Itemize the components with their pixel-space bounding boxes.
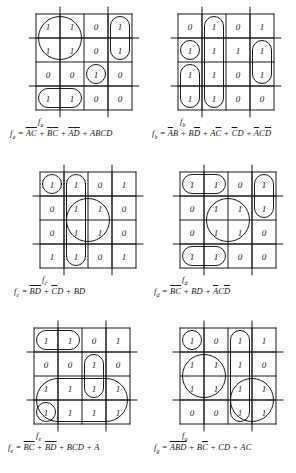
kmap-cell: 1 xyxy=(238,228,243,238)
kmap-cell: 0 xyxy=(118,94,123,104)
kmap-cell: 1 xyxy=(74,252,79,262)
kmap-cell: 1 xyxy=(68,384,73,394)
kmap-cell: 1 xyxy=(262,384,267,394)
kmap-cell: 1 xyxy=(190,252,195,262)
kmap-cell: 0 xyxy=(238,252,243,262)
kmap-cell: 1 xyxy=(214,180,219,190)
kmap-cell: 1 xyxy=(238,336,243,346)
kmap-cell: 0 xyxy=(190,228,195,238)
kmap-fa: 1101110100101100fafa = AC + BC + AD + AB… xyxy=(8,6,156,164)
kmap-cell: 1 xyxy=(262,336,267,346)
kmap-cell: 0 xyxy=(190,408,195,418)
kmap-formula-fe: fe = BC + BD + BCD + A xyxy=(6,442,156,454)
kmap-name-fd: fd xyxy=(152,274,296,286)
kmap-cell: 0 xyxy=(260,94,265,104)
kmap-grid-fd: 1101011101101100 xyxy=(152,164,296,284)
kmap-cell: 1 xyxy=(44,336,49,346)
kmap-cell: 1 xyxy=(46,22,51,32)
kmap-sheet: 1101110100101100fafa = AC + BC + AD + AB… xyxy=(0,0,296,473)
kmap-cell: 1 xyxy=(74,228,79,238)
kmap-cell: 1 xyxy=(98,228,103,238)
kmap-cell: 1 xyxy=(188,94,193,104)
kmap-cell: 1 xyxy=(214,360,219,370)
kmap-cell: 1 xyxy=(74,180,79,190)
kmap-cell: 1 xyxy=(94,70,99,80)
kmap-cell: 1 xyxy=(70,94,75,104)
kmap-cell: 1 xyxy=(262,180,267,190)
kmap-formula-fb: fb = AB + BD + AC + CD + ACD xyxy=(150,128,296,140)
kmap-cell: 1 xyxy=(70,46,75,56)
kmap-cell: 1 xyxy=(70,22,75,32)
kmap-cell: 1 xyxy=(190,180,195,190)
kmap-cell: 1 xyxy=(116,408,121,418)
kmap-cell: 1 xyxy=(212,94,217,104)
kmap-cell: 0 xyxy=(236,94,241,104)
kmap-cell: 1 xyxy=(46,94,51,104)
kmap-cell: 1 xyxy=(68,408,73,418)
kmap-cell: 0 xyxy=(118,70,123,80)
kmap-cell: 1 xyxy=(190,360,195,370)
kmap-cell: 1 xyxy=(236,46,241,56)
kmap-grid-fg: 1011111011110011 xyxy=(152,320,296,440)
kmap-formula-fg: fg = ABD + BC + CD + AC xyxy=(152,442,296,454)
kmap-fg: 1011111011110011fgfg = ABD + BC + CD + A… xyxy=(152,320,296,473)
kmap-cell: 1 xyxy=(50,180,55,190)
kmap-cell: 0 xyxy=(262,228,267,238)
kmap-name-fg: fg xyxy=(152,430,296,442)
kmap-cell: 1 xyxy=(260,46,265,56)
kmap-grid-fb: 0101111111011100 xyxy=(150,6,296,126)
kmap-cell: 0 xyxy=(46,70,51,80)
kmap-cell: 0 xyxy=(116,360,121,370)
kmap-cell: 0 xyxy=(188,22,193,32)
kmap-cell: 0 xyxy=(94,46,99,56)
kmap-grid-fc: 1101011001101101 xyxy=(12,164,160,284)
kmap-cell: 1 xyxy=(122,180,127,190)
kmap-cell: 0 xyxy=(214,336,219,346)
kmap-cell: 1 xyxy=(214,252,219,262)
kmap-cell: 0 xyxy=(98,180,103,190)
kmap-cell: 1 xyxy=(262,408,267,418)
kmap-name-fb: fb xyxy=(150,116,296,128)
kmap-cell: 1 xyxy=(68,336,73,346)
kmap-formula-fa: fa = AC + BC + AD + ABCD xyxy=(8,128,158,140)
kmap-cell: 0 xyxy=(236,22,241,32)
kmap-cell: 1 xyxy=(262,204,267,214)
kmap-cell: 1 xyxy=(116,336,121,346)
kmap-cell: 1 xyxy=(238,204,243,214)
kmap-cell: 1 xyxy=(46,46,51,56)
kmap-cell: 1 xyxy=(122,252,127,262)
kmap-cell: 0 xyxy=(214,408,219,418)
kmap-cell: 1 xyxy=(44,384,49,394)
kmap-cell: 0 xyxy=(262,252,267,262)
kmap-cell: 0 xyxy=(44,360,49,370)
kmap-cell: 1 xyxy=(188,46,193,56)
kmap-cell: 1 xyxy=(92,384,97,394)
kmap-cell: 1 xyxy=(260,70,265,80)
kmap-formula-fc: fc = BD + CD + BD xyxy=(12,286,162,298)
kmap-cell: 1 xyxy=(188,70,193,80)
kmap-cell: 0 xyxy=(122,228,127,238)
kmap-cell: 1 xyxy=(190,384,195,394)
kmap-cell: 1 xyxy=(44,408,49,418)
kmap-cell: 0 xyxy=(50,228,55,238)
kmap-grid-fa: 1101110100101100 xyxy=(8,6,156,126)
kmap-cell: 0 xyxy=(98,252,103,262)
kmap-cell: 0 xyxy=(238,180,243,190)
kmap-fe: 1101001011111111fefe = BC + BD + BCD + A xyxy=(6,320,154,473)
kmap-cell: 0 xyxy=(94,94,99,104)
kmap-grid-fe: 1101001011111111 xyxy=(6,320,154,440)
kmap-cell: 0 xyxy=(70,70,75,80)
kmap-cell: 1 xyxy=(238,384,243,394)
kmap-cell: 1 xyxy=(214,228,219,238)
kmap-cell: 1 xyxy=(118,22,123,32)
kmap-cell: 0 xyxy=(122,204,127,214)
kmap-fb: 0101111111011100fbfb = AB + BD + AC + CD… xyxy=(150,6,296,164)
kmap-cell: 1 xyxy=(74,204,79,214)
kmap-fc: 1101011001101101fcfc = BD + CD + BD xyxy=(12,164,160,322)
kmap-cell: 1 xyxy=(116,384,121,394)
kmap-cell: 1 xyxy=(212,70,217,80)
kmap-cell: 1 xyxy=(92,408,97,418)
kmap-cell: 1 xyxy=(214,204,219,214)
kmap-cell: 0 xyxy=(94,22,99,32)
kmap-cell: 1 xyxy=(238,360,243,370)
